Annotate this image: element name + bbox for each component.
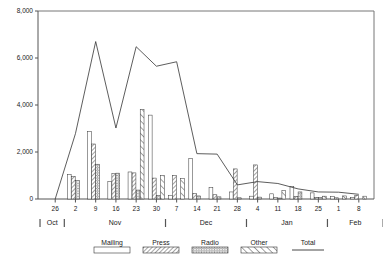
bar-press-1: [335, 198, 339, 199]
legend-swatch-radio: [192, 247, 228, 253]
x-tick-label-16: 16: [112, 205, 120, 212]
bar-radio-4: [258, 197, 262, 199]
y-tick-label: 8,000: [17, 7, 34, 14]
bar-mailing-28: [229, 192, 233, 199]
bar-other-7: [181, 179, 185, 199]
x-tick-label-4: 4: [256, 205, 260, 212]
legend-label-radio: Radio: [201, 239, 219, 246]
x-tick-label-21: 21: [214, 205, 222, 212]
x-tick-label-30: 30: [153, 205, 161, 212]
bar-other-25: [322, 196, 326, 199]
chart-container: 02,0004,0006,0008,000 262916233071421284…: [0, 0, 383, 263]
bar-press-16: [112, 174, 116, 199]
y-axis: 02,0004,0006,0008,000: [17, 7, 374, 202]
total-line-path: [55, 42, 359, 199]
bar-press-8: [355, 195, 359, 199]
bar-other-23: [140, 110, 144, 199]
bar-radio-2: [75, 181, 79, 199]
month-band-axis: OctNovDecJanFeb: [40, 219, 383, 227]
month-label-jan: Jan: [281, 219, 292, 226]
bar-mailing-2: [67, 174, 71, 199]
bar-radio-18: [298, 192, 302, 199]
x-axis: 26291623307142128411182518: [52, 199, 361, 212]
bar-mailing-18: [290, 187, 294, 199]
bar-radio-25: [318, 198, 322, 199]
bar-mailing-30: [148, 115, 152, 199]
x-tick-label-9: 9: [94, 205, 98, 212]
media-response-bar-chart: 02,0004,0006,0008,000 262916233071421284…: [0, 0, 383, 263]
bar-mailing-23: [128, 172, 132, 199]
x-tick-label-11: 11: [274, 205, 281, 212]
y-tick-label: 4,000: [17, 101, 34, 108]
month-label-feb: Feb: [349, 219, 361, 226]
bar-mailing-14: [189, 158, 193, 199]
bar-press-25: [314, 197, 318, 199]
x-tick-label-26: 26: [52, 205, 60, 212]
legend-swatch-other: [241, 247, 277, 253]
y-tick-label: 0: [29, 195, 33, 202]
month-label-oct: Oct: [47, 219, 58, 226]
legend-label-mailing: Mailing: [101, 239, 123, 247]
bar-press-18: [294, 196, 298, 199]
x-tick-label-25: 25: [315, 205, 323, 212]
legend-label-total: Total: [301, 239, 316, 246]
bar-other-11: [282, 191, 286, 199]
bar-mailing-4: [250, 196, 254, 199]
y-tick-label: 2,000: [17, 148, 34, 155]
legend-swatch-mailing: [94, 247, 130, 253]
bar-radio-28: [237, 198, 241, 199]
total-line-series: [55, 42, 359, 199]
bar-radio-23: [136, 190, 140, 199]
bar-press-9: [92, 144, 96, 199]
x-tick-label-7: 7: [175, 205, 179, 212]
bar-radio-16: [116, 173, 120, 199]
bar-other-30: [160, 176, 164, 199]
legend-swatch-press: [143, 247, 179, 253]
legend-label-press: Press: [152, 239, 170, 246]
bar-mailing-1: [330, 197, 334, 199]
x-tick-label-2: 2: [74, 205, 78, 212]
x-tick-label-1: 1: [337, 205, 341, 212]
bar-radio-30: [156, 195, 160, 199]
legend-label-other: Other: [251, 239, 269, 246]
x-tick-label-14: 14: [193, 205, 201, 212]
bar-mailing-8: [351, 197, 355, 199]
month-label-nov: Nov: [109, 219, 122, 226]
bar-other-1: [343, 196, 347, 199]
x-tick-label-8: 8: [357, 205, 361, 212]
month-label-dec: Dec: [200, 219, 213, 226]
bar-radio-9: [96, 164, 100, 199]
bar-radio-11: [278, 198, 282, 199]
bar-press-21: [213, 195, 217, 199]
bar-radio-21: [217, 197, 221, 199]
bar-other-8: [363, 196, 367, 199]
x-tick-label-23: 23: [133, 205, 141, 212]
bar-mailing-7: [169, 195, 173, 199]
bar-mailing-25: [310, 193, 314, 199]
bar-press-30: [152, 178, 156, 199]
bar-mailing-21: [209, 188, 213, 199]
bar-press-2: [71, 176, 75, 199]
chart-legend: MailingPressRadioOtherTotal: [94, 239, 324, 253]
bar-radio-14: [197, 196, 201, 199]
bar-mailing-11: [270, 194, 274, 199]
bar-mailing-16: [108, 182, 112, 199]
bar-press-11: [274, 198, 278, 199]
x-tick-label-28: 28: [234, 205, 242, 212]
y-tick-label: 6,000: [17, 54, 34, 61]
bar-press-7: [173, 176, 177, 200]
bar-press-14: [193, 193, 197, 199]
bar-press-23: [132, 173, 136, 199]
bar-mailing-9: [88, 131, 92, 199]
x-tick-label-18: 18: [294, 205, 302, 212]
